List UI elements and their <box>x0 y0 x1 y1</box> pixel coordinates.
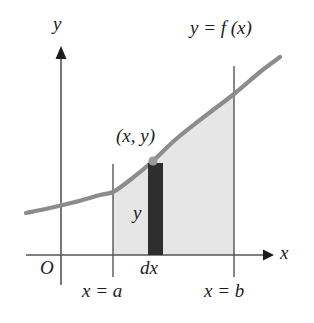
integral-area-figure: y = f (x) y x O (x, y) y dx x = a x = b <box>0 0 314 323</box>
point-coordinate-label: (x, y) <box>116 126 155 145</box>
origin-label: O <box>40 258 54 277</box>
x-axis-arrowhead <box>263 250 274 261</box>
shaded-area-under-curve <box>113 94 234 255</box>
y-axis-arrowhead <box>56 46 67 59</box>
y-axis-label: y <box>53 14 61 33</box>
point-marker-dot <box>148 156 157 165</box>
strip-width-label: dx <box>140 258 158 277</box>
left-bound-label: x = a <box>82 281 122 300</box>
differential-strip-rect <box>148 163 163 255</box>
right-bound-label: x = b <box>204 281 244 300</box>
strip-height-label: y <box>133 203 141 222</box>
curve-equation-label: y = f (x) <box>190 18 252 37</box>
x-axis-label: x <box>280 243 288 262</box>
